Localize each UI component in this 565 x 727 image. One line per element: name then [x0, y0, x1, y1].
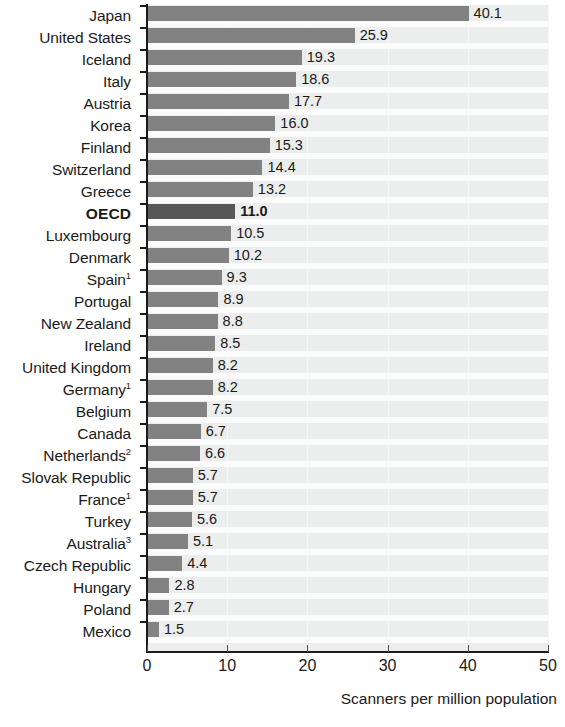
bar-row: 7.5 [147, 401, 548, 423]
bar-row: 8.2 [147, 379, 548, 401]
x-axis-tick [147, 645, 148, 652]
bar-row: 5.6 [147, 511, 548, 533]
bar [147, 50, 302, 65]
y-axis-tick [140, 27, 147, 29]
bar-value-label: 8.8 [218, 313, 243, 329]
bar-value-label: 11.0 [235, 203, 267, 219]
bar [147, 358, 213, 373]
category-label: Spain1 [0, 269, 139, 291]
bar-row: 10.5 [147, 225, 548, 247]
bar [147, 94, 289, 109]
y-axis-tick [140, 291, 147, 293]
bar-row: 8.5 [147, 335, 548, 357]
bar-value-label: 9.3 [222, 269, 247, 285]
bar-value-label: 6.7 [201, 423, 226, 439]
category-label: Belgium [0, 401, 139, 423]
bar-value-label: 1.5 [159, 621, 184, 637]
x-axis-tick-label: 20 [298, 657, 316, 675]
bar [147, 72, 296, 87]
bar [147, 446, 200, 461]
x-axis-tick [227, 645, 228, 652]
bar-row: 40.1 [147, 5, 548, 27]
y-axis-tick [140, 577, 147, 579]
bar-value-label: 10.5 [231, 225, 264, 241]
y-axis-tick [140, 401, 147, 403]
bar-row: 11.0 [147, 203, 548, 225]
bar-row: 5.1 [147, 533, 548, 555]
bar-row: 17.7 [147, 93, 548, 115]
bar-value-label: 25.9 [355, 27, 388, 43]
category-label: OECD [0, 203, 139, 225]
y-axis-tick [140, 71, 147, 73]
bar [147, 6, 469, 21]
bar [147, 226, 231, 241]
bar [147, 468, 193, 483]
y-axis-tick [140, 181, 147, 183]
bar-row: 18.6 [147, 71, 548, 93]
category-label: Switzerland [0, 159, 139, 181]
bar [147, 314, 218, 329]
bar-value-label: 2.8 [169, 577, 194, 593]
y-axis-tick [140, 423, 147, 425]
y-axis-tick [140, 203, 147, 205]
y-axis-tick [140, 357, 147, 359]
y-axis-tick [140, 115, 147, 117]
x-axis-tick-label: 50 [539, 657, 557, 675]
x-axis-tick [468, 645, 469, 652]
bar-value-label: 15.3 [270, 137, 303, 153]
bar-row: 2.8 [147, 577, 548, 599]
bar-value-label: 5.7 [193, 489, 218, 505]
bar-value-label: 5.1 [188, 533, 213, 549]
y-axis-tick [140, 379, 147, 381]
category-label: Turkey [0, 511, 139, 533]
y-axis-tick [140, 335, 147, 337]
x-axis-tick [548, 645, 549, 652]
bar [147, 336, 215, 351]
y-axis-tick [140, 511, 147, 513]
bar [147, 512, 192, 527]
y-axis-tick [140, 313, 147, 315]
category-label: United States [0, 27, 139, 49]
category-label: Mexico [0, 621, 139, 643]
bar-value-label: 8.5 [215, 335, 240, 351]
bar-value-label: 8.9 [218, 291, 243, 307]
y-axis-tick [140, 269, 147, 271]
category-label: Canada [0, 423, 139, 445]
category-label: Austria [0, 93, 139, 115]
category-label: Poland [0, 599, 139, 621]
x-axis-tick-label: 0 [143, 657, 152, 675]
category-label: Germany1 [0, 379, 139, 401]
footnote-marker: 1 [126, 270, 131, 281]
category-label: France1 [0, 489, 139, 511]
bar-row: 10.2 [147, 247, 548, 269]
bar [147, 490, 193, 505]
bar [147, 600, 169, 615]
category-label: Iceland [0, 49, 139, 71]
bar [147, 424, 201, 439]
row-separator [147, 637, 548, 643]
category-label: Italy [0, 71, 139, 93]
footnote-marker: 1 [126, 490, 131, 501]
bar-value-label: 16.0 [275, 115, 308, 131]
y-axis-tick [140, 599, 147, 601]
bar [147, 182, 253, 197]
category-label: United Kingdom [0, 357, 139, 379]
category-label: Finland [0, 137, 139, 159]
y-axis-tick [140, 5, 147, 7]
category-label: Portugal [0, 291, 139, 313]
y-axis-tick [140, 93, 147, 95]
bar-value-label: 19.3 [302, 49, 335, 65]
bar-row: 14.4 [147, 159, 548, 181]
bar-value-label: 6.6 [200, 445, 225, 461]
bar-row: 6.6 [147, 445, 548, 467]
bar-value-label: 8.2 [213, 357, 238, 373]
x-axis-tick [307, 645, 308, 652]
y-axis-tick [140, 137, 147, 139]
bar [147, 160, 262, 175]
bar-row: 5.7 [147, 467, 548, 489]
bar [147, 534, 188, 549]
category-label: Australia3 [0, 533, 139, 555]
bar-value-label: 10.2 [229, 247, 262, 263]
footnote-marker: 1 [126, 380, 131, 391]
bar-value-label: 7.5 [207, 401, 232, 417]
